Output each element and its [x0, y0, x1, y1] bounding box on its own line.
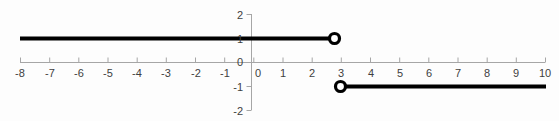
y-tick-label: 0	[237, 57, 243, 68]
x-tick-label: 2	[309, 68, 315, 79]
x-axis-ticks	[21, 58, 546, 63]
x-tick-label: 5	[397, 68, 403, 79]
x-tick-label: -4	[132, 68, 142, 79]
x-tick-label: -2	[191, 68, 201, 79]
x-tick-label: 0	[255, 68, 261, 79]
y-tick-label: 2	[237, 10, 243, 21]
y-axis-ticks	[247, 15, 252, 111]
x-tick-label: -5	[103, 68, 113, 79]
x-tick-label: 6	[426, 68, 432, 79]
piecewise-step-function-chart: -8 -7 -6 -5 -4 -3 -2 -1 0 1 2 3 4 5 6 7 …	[0, 0, 559, 121]
plot-area	[0, 0, 559, 121]
x-tick-label: 4	[368, 68, 374, 79]
x-tick-label: 7	[455, 68, 461, 79]
open-circle-upper-endpoint	[330, 34, 340, 44]
y-tick-label: 1	[237, 34, 243, 45]
x-tick-label: 8	[484, 68, 490, 79]
y-tick-label: -2	[233, 106, 243, 117]
x-tick-label: 9	[513, 68, 519, 79]
y-tick-label: -1	[233, 82, 243, 93]
open-circle-lower-endpoint	[336, 82, 346, 92]
x-tick-label: -3	[161, 68, 171, 79]
x-tick-label: 10	[539, 68, 551, 79]
x-tick-label: 3	[338, 68, 344, 79]
x-tick-label: -1	[220, 68, 230, 79]
x-tick-label: -6	[74, 68, 84, 79]
y-axis	[247, 14, 252, 111]
x-axis	[20, 58, 546, 63]
x-tick-label: -8	[15, 68, 25, 79]
x-tick-label: -7	[45, 68, 55, 79]
x-tick-label: 1	[280, 68, 286, 79]
